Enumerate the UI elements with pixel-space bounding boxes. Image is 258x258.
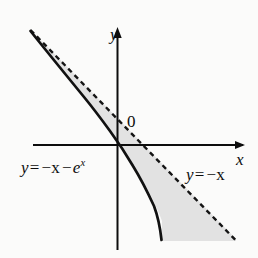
curve-label-base: e: [73, 158, 81, 177]
asymptote-label: y=−x: [186, 166, 226, 183]
curve-label-lhs: y: [21, 158, 29, 177]
curve-label-exponent: x: [81, 157, 86, 168]
asymptote-label-equals: =: [194, 165, 206, 184]
x-axis-arrowhead: [235, 141, 245, 149]
function-curve: [31, 31, 162, 240]
math-figure: y x 0 y=−x−ex y=−x: [0, 0, 258, 258]
asymptote-label-rhs: −x: [206, 165, 227, 184]
curve-label-term1: −x: [41, 158, 62, 177]
asymptote-label-lhs: y: [186, 165, 194, 184]
x-axis-label: x: [236, 151, 244, 168]
origin-label: 0: [127, 113, 136, 130]
y-axis-label: y: [110, 26, 118, 43]
curve-label-minus: −: [61, 158, 73, 177]
curve-label-equals: =: [29, 158, 41, 177]
function-curve-label: y=−x−ex: [21, 159, 85, 176]
